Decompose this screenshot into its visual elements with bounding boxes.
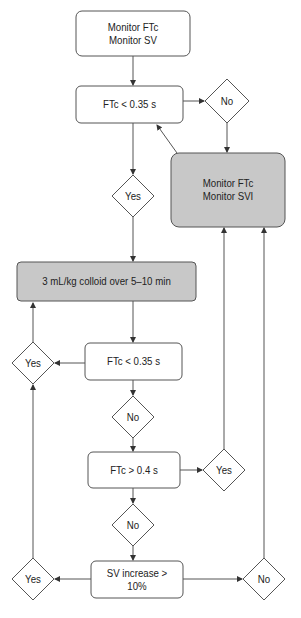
no1-label: No [208,79,247,123]
no3-label: No [115,504,152,546]
check4-label: SV increase > 10% [97,561,178,598]
yes1-label: Yes [115,175,152,217]
colloid-label: 3 mL/kg colloid over 5–10 min [28,262,186,301]
check1-label: FTc < 0.35 s [82,86,176,123]
check3-label: FTc > 0.4 s [94,452,175,488]
svi-line1: Monitor FTc [203,177,254,190]
yes3-label: Yes [206,449,243,491]
svi-label: Monitor FTc Monitor SVI [178,153,278,227]
start-line1: Monitor FTc [108,21,159,34]
yes2-label: Yes [15,342,52,384]
check2-label: FTc < 0.35 s [91,343,176,380]
start-line2: Monitor SV [109,34,157,47]
svi-line2: Monitor SVI [203,190,254,203]
start-label: Monitor FTc Monitor SV [83,11,183,56]
no2-label: No [115,396,152,438]
yes4-label: Yes [15,558,52,600]
no4-label: No [246,558,283,600]
